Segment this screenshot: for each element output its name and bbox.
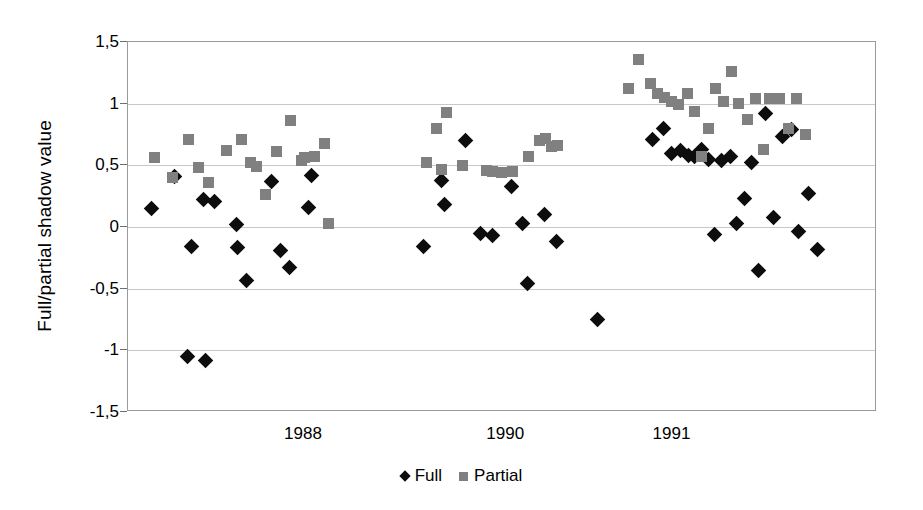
- data-point-partial: [236, 134, 247, 145]
- data-point-partial: [689, 106, 700, 117]
- data-point-partial: [758, 144, 769, 155]
- data-point-partial: [457, 160, 468, 171]
- data-point-full: [766, 209, 782, 225]
- data-point-full: [416, 239, 432, 255]
- data-point-full: [744, 155, 760, 171]
- data-point-full: [206, 193, 222, 209]
- gridline: [128, 289, 875, 290]
- y-axis-tick-mark: [120, 411, 127, 412]
- data-point-full: [590, 312, 606, 328]
- data-point-partial: [791, 93, 802, 104]
- legend-label: Partial: [474, 466, 522, 486]
- diamond-marker-icon: [399, 470, 410, 481]
- y-axis-tick-mark: [120, 226, 127, 227]
- data-point-partial: [149, 152, 160, 163]
- data-point-partial: [783, 123, 794, 134]
- data-point-full: [549, 234, 565, 250]
- data-point-partial: [221, 145, 232, 156]
- data-point-partial: [285, 115, 296, 126]
- y-axis-tick-labels: 1,510,50-0,5-1-1,5: [57, 41, 119, 411]
- data-point-full: [281, 260, 297, 276]
- y-axis-tick-mark: [120, 103, 127, 104]
- data-point-partial: [421, 157, 432, 168]
- data-point-full: [458, 133, 474, 149]
- data-point-partial: [436, 164, 447, 175]
- data-point-partial: [441, 107, 452, 118]
- data-point-partial: [167, 172, 178, 183]
- data-point-full: [645, 132, 661, 148]
- y-axis-tick-mark: [120, 349, 127, 350]
- data-point-partial: [323, 218, 334, 229]
- data-point-full: [810, 241, 826, 257]
- data-point-full: [437, 197, 453, 213]
- data-point-partial: [726, 66, 737, 77]
- data-point-full: [433, 172, 449, 188]
- data-point-full: [230, 240, 246, 256]
- chart-legend: FullPartial: [0, 466, 923, 486]
- x-axis-tick-label: 1990: [486, 425, 524, 442]
- data-point-partial: [496, 167, 507, 178]
- data-point-full: [728, 216, 744, 232]
- data-point-partial: [552, 140, 563, 151]
- data-point-partial: [251, 161, 262, 172]
- data-point-partial: [800, 129, 811, 140]
- data-point-full: [800, 186, 816, 202]
- data-point-partial: [774, 93, 785, 104]
- y-axis-tick-mark: [120, 288, 127, 289]
- data-point-partial: [710, 83, 721, 94]
- data-point-partial: [718, 96, 729, 107]
- y-axis-tick-label: -1: [59, 341, 119, 358]
- data-point-full: [758, 106, 774, 122]
- data-point-partial: [703, 123, 714, 134]
- data-point-full: [184, 239, 200, 255]
- data-point-full: [656, 121, 672, 137]
- y-axis-tick-mark: [120, 164, 127, 165]
- data-point-full: [304, 167, 320, 183]
- data-point-full: [707, 227, 723, 243]
- data-point-partial: [633, 54, 644, 65]
- data-point-partial: [271, 146, 282, 157]
- data-point-full: [515, 216, 531, 232]
- square-marker-icon: [459, 472, 468, 481]
- data-point-partial: [319, 138, 330, 149]
- gridline: [128, 350, 875, 351]
- data-point-partial: [696, 151, 707, 162]
- x-axis-tick-label: 1988: [284, 425, 322, 442]
- x-axis-tick-label: 1991: [653, 425, 691, 442]
- legend-entry-partial[interactable]: Partial: [459, 466, 522, 486]
- data-point-partial: [682, 88, 693, 99]
- data-point-full: [537, 207, 553, 223]
- legend-entry-full[interactable]: Full: [401, 466, 442, 486]
- data-point-partial: [733, 98, 744, 109]
- y-axis-tick-label: 0,5: [59, 156, 119, 173]
- data-point-full: [751, 262, 767, 278]
- data-point-partial: [507, 166, 518, 177]
- y-axis-tick-label: 1,5: [59, 33, 119, 50]
- legend-label: Full: [415, 466, 442, 486]
- data-point-partial: [673, 99, 684, 110]
- y-axis-tick-label: -0,5: [59, 279, 119, 296]
- data-point-full: [737, 191, 753, 207]
- data-point-partial: [431, 123, 442, 134]
- y-axis-tick-mark: [120, 41, 127, 42]
- data-point-full: [485, 228, 501, 244]
- data-point-partial: [523, 151, 534, 162]
- y-axis-tick-label: 1: [59, 94, 119, 111]
- data-point-partial: [193, 162, 204, 173]
- data-point-partial: [309, 151, 320, 162]
- data-point-full: [197, 352, 213, 368]
- plot-area: [127, 41, 876, 411]
- y-axis-tick-label: -1,5: [59, 403, 119, 420]
- gridline: [128, 104, 875, 105]
- y-axis-tick-label: 0: [59, 218, 119, 235]
- data-point-full: [301, 199, 317, 215]
- data-point-partial: [750, 93, 761, 104]
- data-point-full: [144, 201, 160, 217]
- gridline: [128, 165, 875, 166]
- data-point-full: [263, 174, 279, 190]
- data-point-full: [272, 243, 288, 259]
- data-point-full: [229, 217, 245, 233]
- data-point-partial: [260, 189, 271, 200]
- scatter-chart-figure: Full/partial shadow value 1,510,50-0,5-1…: [0, 0, 923, 510]
- data-point-partial: [623, 83, 634, 94]
